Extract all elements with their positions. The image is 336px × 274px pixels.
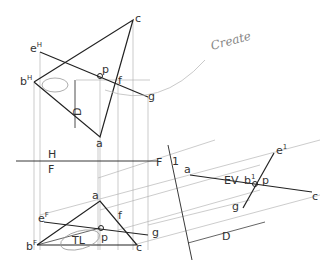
label-d-aux: D [222, 230, 230, 243]
label-b-h: bH [20, 74, 32, 88]
label-f-top: f [118, 74, 123, 87]
label-c-top: c [135, 12, 141, 25]
label-a-top: a [96, 137, 103, 150]
fold-label-f: F [48, 163, 54, 176]
label-c-aux: c [312, 190, 318, 203]
label-b-1: b1 [244, 173, 255, 187]
label-g-aux: g [232, 200, 239, 213]
front-view [37, 201, 148, 245]
label-p-front: p [101, 231, 108, 244]
fold-label-h: H [48, 148, 56, 161]
label-e-1: e1 [276, 143, 287, 157]
piercing-point-diagram: bH eH c a p f g D Create H F a bF eF c f… [0, 0, 336, 274]
label-g-front: g [152, 226, 159, 239]
label-b-f: bF [26, 239, 37, 253]
label-g-top: g [148, 90, 155, 103]
cursor-scribble [42, 78, 68, 92]
label-ev: EV [224, 174, 239, 187]
label-d-top: D [71, 108, 84, 116]
label-tl: TL [71, 234, 86, 247]
label-p-aux: p [262, 174, 269, 187]
label-f-front: f [118, 209, 123, 222]
label-a-front: a [92, 189, 99, 202]
label-p-top: p [102, 63, 109, 76]
handwritten-note: Create [209, 29, 252, 53]
fold-label-f: F [156, 156, 162, 169]
label-c-front: c [136, 241, 142, 254]
fold-label-1: 1 [172, 155, 179, 168]
label-a-aux: a [184, 163, 191, 176]
